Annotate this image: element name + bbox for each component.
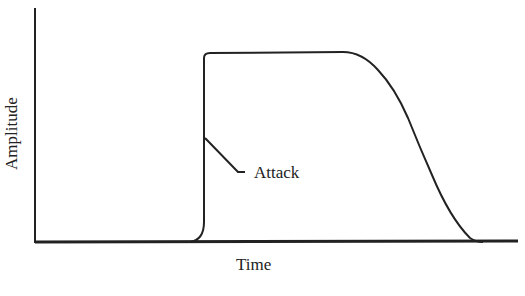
envelope-diagram — [0, 0, 525, 296]
envelope-curve — [35, 52, 483, 242]
attack-annotation: Attack — [254, 163, 299, 183]
attack-leader-line — [205, 138, 245, 172]
y-axis-label: Amplitude — [2, 97, 22, 170]
x-axis-label: Time — [236, 255, 271, 275]
